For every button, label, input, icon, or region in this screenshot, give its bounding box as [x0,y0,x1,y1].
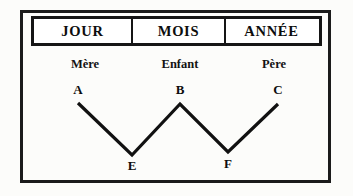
header-table: JOUR MOIS ANNÉE [31,16,322,46]
header-cell-jour: JOUR [34,19,131,43]
node-label-a: A [62,82,94,98]
header-cell-annee: ANNÉE [226,19,317,43]
node-label-e: E [116,158,148,174]
diagram-figure: JOUR MOIS ANNÉE Mère Enfant Père A B C E… [0,0,353,196]
role-label-mere: Mère [45,57,125,72]
node-label-b: B [164,82,196,98]
role-label-pere: Père [237,57,311,72]
header-cell-mois: MOIS [131,19,226,43]
role-label-enfant: Enfant [140,57,220,72]
node-label-f: F [212,156,244,172]
node-label-c: C [262,82,294,98]
